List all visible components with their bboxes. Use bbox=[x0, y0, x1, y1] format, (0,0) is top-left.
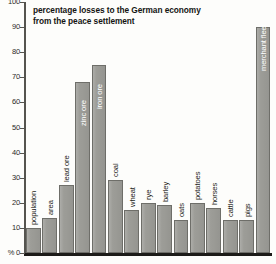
bar bbox=[157, 205, 172, 253]
y-axis-tick-label: 10 bbox=[0, 224, 20, 232]
y-axis-tick bbox=[20, 228, 25, 229]
y-axis-tick-label: 20 bbox=[0, 199, 20, 207]
bar-series: populationarealead orezinc oreiron oreco… bbox=[26, 2, 272, 253]
bar-group: pigs bbox=[239, 2, 254, 253]
y-axis-tick-label: 30 bbox=[0, 174, 20, 182]
y-axis-tick bbox=[20, 77, 25, 78]
bar-category-label: iron ore bbox=[94, 84, 103, 109]
bar-group: rye bbox=[141, 2, 156, 253]
y-axis-unit-label: % 0 bbox=[0, 249, 20, 257]
plot-area: populationarealead orezinc oreiron oreco… bbox=[24, 2, 272, 253]
bar-group: iron ore bbox=[92, 2, 107, 253]
bar-group: barley bbox=[157, 2, 172, 253]
y-axis-tick bbox=[20, 203, 25, 204]
bar bbox=[223, 220, 238, 253]
bar-category-label: barley bbox=[160, 182, 169, 202]
bar bbox=[190, 203, 205, 253]
bar-category-label: merchant fleet bbox=[258, 24, 267, 71]
y-axis-tick-label: 40 bbox=[0, 149, 20, 157]
y-axis-tick-label: 90 bbox=[0, 23, 20, 31]
y-axis-tick bbox=[20, 102, 25, 103]
bar-category-label: potatoes bbox=[193, 171, 202, 199]
bar-category-label: rye bbox=[144, 190, 153, 200]
bar-category-label: cattle bbox=[226, 200, 235, 218]
y-axis-tick bbox=[20, 253, 25, 254]
bar-group: area bbox=[42, 2, 57, 253]
bar bbox=[42, 218, 57, 253]
bar-group: merchant fleet bbox=[256, 2, 271, 253]
bar bbox=[124, 210, 139, 253]
x-axis-line bbox=[24, 253, 272, 256]
bar bbox=[206, 208, 221, 253]
y-axis-tick bbox=[20, 178, 25, 179]
bar-category-label: area bbox=[45, 200, 54, 215]
y-axis-tick bbox=[20, 2, 25, 3]
bar bbox=[174, 220, 189, 253]
y-axis-tick-label: 50 bbox=[0, 124, 20, 132]
bar-category-label: population bbox=[29, 191, 38, 225]
bar-group: potatoes bbox=[190, 2, 205, 253]
bar bbox=[141, 203, 156, 253]
chart-container: % 0102030405060708090100 percentage loss… bbox=[0, 0, 276, 264]
bar-category-label: oats bbox=[176, 203, 185, 217]
y-axis-tick bbox=[20, 27, 25, 28]
bar-category-label: horses bbox=[209, 183, 218, 205]
y-axis-tick-label: 80 bbox=[0, 48, 20, 56]
y-axis-tick-label: 100 bbox=[0, 0, 20, 6]
bar-category-label: zinc ore bbox=[78, 101, 87, 127]
bar-group: population bbox=[26, 2, 41, 253]
bar-category-label: pigs bbox=[242, 204, 251, 218]
y-axis-tick-label: 60 bbox=[0, 98, 20, 106]
y-axis-tick bbox=[20, 52, 25, 53]
bar-group: coal bbox=[108, 2, 123, 253]
bar bbox=[108, 180, 123, 253]
bar-category-label: lead ore bbox=[62, 156, 71, 183]
y-axis-tick bbox=[20, 153, 25, 154]
bar-group: cattle bbox=[223, 2, 238, 253]
bar bbox=[26, 228, 41, 253]
bar-group: lead ore bbox=[59, 2, 74, 253]
bar-group: oats bbox=[174, 2, 189, 253]
y-axis-tick-label: 70 bbox=[0, 73, 20, 81]
bar bbox=[239, 220, 254, 253]
bar bbox=[59, 185, 74, 253]
bar-group: wheat bbox=[124, 2, 139, 253]
bar-group: horses bbox=[206, 2, 221, 253]
bar-group: zinc ore bbox=[75, 2, 90, 253]
y-axis-tick bbox=[20, 128, 25, 129]
bar-category-label: coal bbox=[111, 164, 120, 178]
bar-category-label: wheat bbox=[127, 188, 136, 208]
